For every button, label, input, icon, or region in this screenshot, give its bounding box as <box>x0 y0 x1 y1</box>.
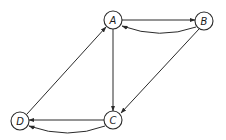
edge-c-to-d-curved <box>29 126 105 133</box>
node-b: B <box>195 12 213 30</box>
node-d-label: D <box>16 116 24 127</box>
node-a: A <box>104 11 122 29</box>
edge-b-to-c <box>121 29 199 113</box>
edge-d-to-a <box>27 27 106 114</box>
node-c-label: C <box>110 115 117 126</box>
edge-b-to-a-curved <box>122 26 196 33</box>
node-c: C <box>104 111 122 129</box>
node-d: D <box>11 112 29 130</box>
node-a-label: A <box>109 15 117 26</box>
directed-graph-diagram: A B C D <box>0 0 226 140</box>
node-b-label: B <box>201 16 208 27</box>
